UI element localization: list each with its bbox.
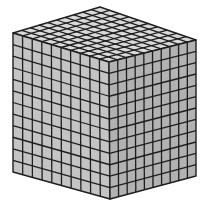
cube-figure: Cube made of unit cubes	[0, 0, 204, 219]
cube-left-face	[13, 33, 110, 199]
cube-right-face	[109, 40, 196, 199]
unit-cube-diagram	[0, 0, 204, 219]
